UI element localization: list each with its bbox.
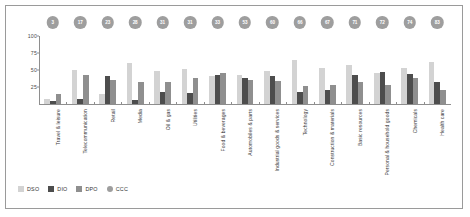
bar-group: 72: [369, 36, 396, 104]
x-axis-label: Health care: [439, 82, 445, 109]
x-axis-label-text: Utilities: [192, 109, 198, 126]
legend-item[interactable]: DPO: [76, 186, 97, 192]
legend-swatch-dso: [18, 186, 24, 192]
legend-label: CCC: [116, 186, 128, 192]
bar-group: 83: [424, 36, 451, 104]
chart-legend: DSODIODPOCCC: [18, 186, 128, 192]
legend-swatch-ccc: [107, 186, 113, 192]
bar-group: 23: [94, 36, 121, 104]
bar-group: 31: [176, 36, 203, 104]
x-axis-label: Chemicals: [412, 85, 418, 109]
bar-group: 28: [121, 36, 148, 104]
ccc-value-badge: 66: [294, 16, 307, 29]
x-axis-label: Telecommunication: [82, 65, 88, 110]
x-axis-label-text: Retail: [110, 109, 116, 122]
ccc-value-badge: 67: [321, 16, 334, 29]
x-axis-separator: [286, 102, 287, 105]
x-axis-label-text: Food & beverages: [220, 109, 226, 151]
x-axis-separator: [94, 102, 95, 105]
x-axis-label-text: Technology: [302, 109, 308, 135]
x-axis-separator: [66, 102, 67, 105]
x-axis-label: Food & beverages: [220, 67, 226, 109]
bar-group: 71: [341, 36, 368, 104]
y-axis-tick-label: 25: [6, 84, 37, 90]
x-axis-label: Industrial goods & services: [274, 47, 280, 109]
x-axis-label-text: Telecommunication: [82, 109, 88, 154]
x-axis-label: Automobiles & parts: [247, 62, 253, 109]
x-axis-label-text: Industrial goods & services: [274, 109, 280, 171]
x-axis-label-text: Travel & leisure: [55, 109, 61, 145]
ccc-value-badge: 23: [101, 16, 114, 29]
x-axis-separator: [259, 102, 260, 105]
x-axis-label: Basic resources: [357, 72, 363, 109]
chart-frame: Days 255075100 3172328313133536066677172…: [5, 5, 463, 209]
x-axis-separator: [121, 102, 122, 105]
x-axis-label-text: Oil & gas: [165, 109, 171, 130]
x-axis-separator: [369, 102, 370, 105]
x-axis-separator: [204, 102, 205, 105]
x-axis-label-text: Media: [137, 109, 143, 123]
ccc-value-badge: 53: [239, 16, 252, 29]
bar-dso: [127, 63, 133, 104]
bar-group: 67: [314, 36, 341, 104]
x-axis-label: Oil & gas: [165, 88, 171, 109]
bar-group: 31: [149, 36, 176, 104]
bar-group: 53: [231, 36, 258, 104]
y-axis-tick-label: 100: [6, 33, 37, 39]
y-axis-tick-label: 75: [6, 50, 37, 56]
ccc-value-badge: 60: [266, 16, 279, 29]
x-axis-label-text: Personal & household goods: [384, 109, 390, 176]
x-axis-label: Media: [137, 95, 143, 109]
bar-group: 33: [204, 36, 231, 104]
ccc-value-badge: 33: [211, 16, 224, 29]
x-axis-separator: [341, 102, 342, 105]
bar-group: 60: [259, 36, 286, 104]
bar-group: 74: [396, 36, 423, 104]
legend-swatch-dpo: [76, 186, 82, 192]
y-axis-tick-label: 50: [6, 67, 37, 73]
ccc-value-badge: 3: [46, 16, 59, 29]
legend-label: DPO: [85, 186, 97, 192]
ccc-value-badge: 83: [431, 16, 444, 29]
legend-swatch-dio: [48, 186, 54, 192]
legend-label: DIO: [57, 186, 67, 192]
legend-item[interactable]: DSO: [18, 186, 39, 192]
x-axis-label: Construction & materials: [329, 52, 335, 109]
bar-group: 17: [66, 36, 93, 104]
x-axis-separator: [231, 102, 232, 105]
ccc-value-badge: 28: [129, 16, 142, 29]
x-axis-label: Retail: [110, 96, 116, 109]
x-axis-label-text: Construction & materials: [329, 109, 335, 166]
ccc-value-badge: 72: [376, 16, 389, 29]
legend-label: DSO: [27, 186, 39, 192]
ccc-value-badge: 71: [349, 16, 362, 29]
x-axis-separator: [176, 102, 177, 105]
x-axis-separator: [149, 102, 150, 105]
ccc-value-badge: 31: [184, 16, 197, 29]
legend-item[interactable]: DIO: [48, 186, 67, 192]
legend-item[interactable]: CCC: [107, 186, 128, 192]
x-axis-label-text: Health care: [439, 109, 445, 136]
x-axis-label: Personal & household goods: [384, 42, 390, 109]
ccc-value-badge: 31: [156, 16, 169, 29]
x-axis-label-text: Automobiles & parts: [247, 109, 253, 156]
x-axis-label: Travel & leisure: [55, 73, 61, 109]
x-axis-label-text: Chemicals: [412, 109, 418, 133]
ccc-value-badge: 17: [74, 16, 87, 29]
x-axis-separator: [424, 102, 425, 105]
bar-group: 66: [286, 36, 313, 104]
x-axis-label-text: Basic resources: [357, 109, 363, 146]
x-axis-separator: [314, 102, 315, 105]
x-axis-label: Utilities: [192, 92, 198, 109]
x-axis-separator: [396, 102, 397, 105]
bar-group: 3: [39, 36, 66, 104]
x-axis-label: Technology: [302, 83, 308, 109]
ccc-value-badge: 74: [404, 16, 417, 29]
